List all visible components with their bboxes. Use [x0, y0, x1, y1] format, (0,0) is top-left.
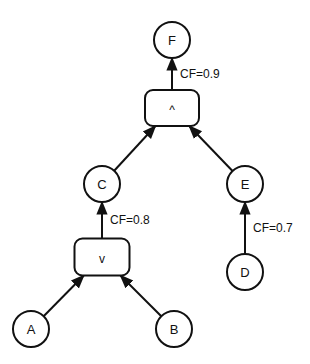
- cf-label-and-f: CF=0.9: [180, 67, 220, 81]
- operator-and: ^: [145, 90, 199, 126]
- node-label: D: [240, 265, 249, 280]
- cf-label-or-c: CF=0.8: [110, 213, 150, 227]
- edge-c-to-and: [114, 126, 155, 171]
- inference-network-diagram: CF=0.9CF=0.8CF=0.7 F^CEvDAB: [0, 0, 310, 364]
- node-a: A: [13, 311, 49, 347]
- node-b: B: [156, 311, 192, 347]
- operator-or: v: [75, 239, 130, 276]
- edge-e-to-and: [189, 126, 232, 171]
- node-d: D: [227, 254, 263, 290]
- node-c: C: [84, 166, 120, 202]
- node-label: C: [97, 177, 106, 192]
- node-label: v: [99, 252, 105, 266]
- node-label: B: [170, 322, 179, 337]
- node-e: E: [227, 166, 263, 202]
- edge-a-to-or: [44, 276, 84, 317]
- node-label: ^: [169, 103, 175, 117]
- node-label: E: [241, 177, 250, 192]
- node-f: F: [154, 22, 190, 58]
- node-label: A: [27, 322, 36, 337]
- cf-label-d-e: CF=0.7: [253, 221, 293, 235]
- edge-b-to-or: [121, 276, 162, 317]
- node-label: F: [168, 33, 176, 48]
